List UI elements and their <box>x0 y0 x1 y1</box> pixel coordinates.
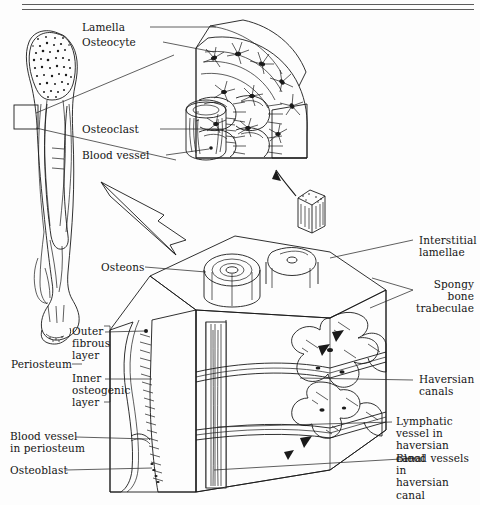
label-inner-osteogenic-layer: Inner osteogenic layer <box>72 372 130 409</box>
label-periosteum: Periosteum <box>6 358 72 370</box>
inner-osteogenic-hatch <box>140 334 163 481</box>
label-osteoclast: Osteoclast <box>82 123 139 135</box>
bone-structure-figure: Lamella Osteocyte Osteoclast Blood vesse… <box>0 0 480 505</box>
label-lamella: Lamella <box>82 21 125 33</box>
interstitial-lamellae-shapes <box>284 330 344 460</box>
label-spongy-bone-trabeculae: Spongy bone trabeculae <box>398 278 474 315</box>
magnification-arrow <box>101 182 186 255</box>
label-osteons: Osteons <box>101 261 145 273</box>
osteon-cut-open <box>204 254 260 307</box>
page-rules <box>22 5 474 10</box>
label-osteoblast: Osteoblast <box>10 464 68 476</box>
femur-to-osteon-leaders <box>36 55 176 160</box>
femur-region-box <box>14 105 38 129</box>
bone-sample-cube <box>298 190 325 233</box>
osteon-cutaway-block <box>186 20 307 160</box>
label-outer-fibrous-layer: Outer fibrous layer <box>72 325 110 362</box>
label-osteocyte: Osteocyte <box>82 36 136 48</box>
label-blood-vessel: Blood vessel <box>82 149 149 161</box>
cube-callout-arrow <box>272 170 296 196</box>
osteon-cut-open-2 <box>266 248 318 289</box>
compact-bone-block <box>110 236 386 492</box>
label-interstitial-lamellae: Interstitial lamellae <box>419 234 477 258</box>
label-blood-vessel-in-periosteum: Blood vessel in periosteum <box>10 430 85 454</box>
label-blood-vessels-haversian: Blood vessels in haversian canal <box>396 452 480 501</box>
label-haversian-canals: Haversian canals <box>419 373 474 397</box>
central-haversian-column <box>206 320 226 488</box>
long-bone-femur <box>26 31 79 344</box>
femur-spongy-stipple <box>32 36 72 98</box>
